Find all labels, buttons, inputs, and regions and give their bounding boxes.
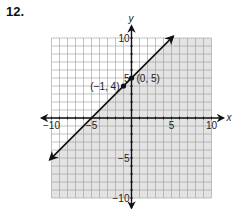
x-tick-label: 10 (206, 120, 218, 131)
point-label: (0, 5) (137, 73, 160, 84)
y-tick-label: 10 (118, 33, 130, 44)
plotted-point (129, 75, 134, 80)
point-label: (−1, 4) (90, 81, 119, 92)
x-tick-label: 5 (169, 120, 175, 131)
y-axis-label: y (128, 13, 135, 24)
x-axis-label: x (226, 112, 233, 123)
y-tick-label: −10 (113, 193, 130, 204)
y-tick-label: −5 (118, 153, 130, 164)
x-tick-label: −10 (43, 120, 60, 131)
plotted-point (121, 83, 126, 88)
coordinate-plane: xy−10−5510105−5−10(−1, 4)(0, 5) (0, 0, 240, 209)
